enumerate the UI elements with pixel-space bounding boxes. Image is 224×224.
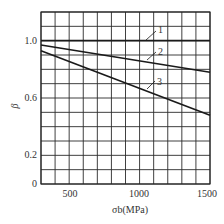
curve-label-1: 1 <box>158 24 163 35</box>
chart: 0 0.2 0.6 1.0 500 1000 1500 σb(MPa) β 1 … <box>0 0 224 224</box>
x-tick-500: 500 <box>63 188 78 199</box>
leader-2 <box>147 52 156 60</box>
curve-label-2: 2 <box>158 46 163 57</box>
x-tick-1500: 1500 <box>197 188 217 199</box>
grid-lines <box>41 12 210 184</box>
y-tick-0.6: 0.6 <box>25 92 38 103</box>
y-tick-1.0: 1.0 <box>25 35 38 46</box>
curve-label-3: 3 <box>157 76 162 87</box>
leader-1 <box>146 31 156 40</box>
x-axis-label: σb(MPa) <box>112 204 148 216</box>
x-tick-1000: 1000 <box>129 188 149 199</box>
y-tick-0.2: 0.2 <box>25 149 38 160</box>
y-axis-label: β <box>9 103 20 109</box>
y-tick-0: 0 <box>32 178 37 189</box>
